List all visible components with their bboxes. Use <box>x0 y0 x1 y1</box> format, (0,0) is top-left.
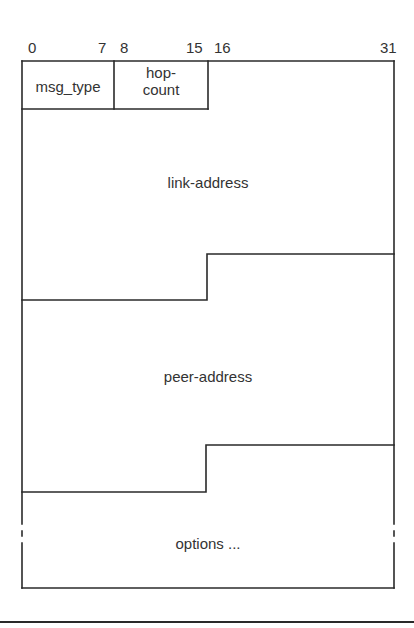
bit-label-0: 0 <box>28 40 36 56</box>
field-peer-address: peer-address <box>22 368 394 385</box>
hop-count-line-1: hop- <box>114 64 208 81</box>
bit-label-7: 7 <box>98 40 106 56</box>
hop-count-line-2: count <box>114 81 208 98</box>
relay-message-format-diagram: 0 7 8 15 16 31 msg_type hop- count link-… <box>0 0 414 628</box>
field-link-address: link-address <box>22 174 394 191</box>
link-address-boundary <box>22 254 394 300</box>
field-msg-type: msg_type <box>22 78 114 95</box>
field-hop-count: hop- count <box>114 64 208 98</box>
bit-label-16: 16 <box>214 40 231 56</box>
field-options: options ... <box>22 535 394 552</box>
bit-label-15: 15 <box>186 40 203 56</box>
bit-label-31: 31 <box>380 40 397 56</box>
peer-address-boundary <box>22 445 394 492</box>
bit-label-8: 8 <box>120 40 128 56</box>
